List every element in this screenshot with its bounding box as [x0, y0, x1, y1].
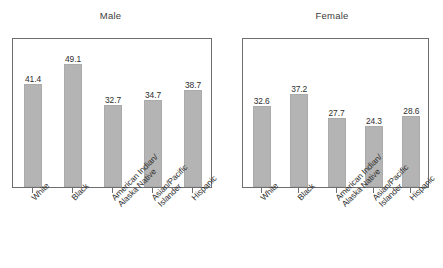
bar [328, 118, 346, 187]
panel-title-male: Male [0, 10, 221, 21]
bar [253, 106, 271, 188]
panel-title-female: Female [221, 10, 443, 21]
bar [290, 94, 308, 187]
bar-value-label: 32.6 [246, 96, 278, 106]
bar-value-label: 49.1 [57, 54, 89, 64]
bar-value-label: 24.3 [358, 116, 390, 126]
bar [24, 84, 42, 188]
bar-value-label: 37.2 [283, 84, 315, 94]
panel-male: Male 41.449.132.734.738.7 WhiteBlackAmer… [0, 0, 221, 268]
bar [104, 105, 122, 187]
bar-value-label: 27.7 [321, 108, 353, 118]
panel-female: Female 32.637.227.724.328.6 WhiteBlackAm… [221, 0, 443, 268]
bar-value-label: 28.6 [395, 106, 427, 116]
bar-value-label: 34.7 [137, 90, 169, 100]
bar-value-label: 32.7 [97, 95, 129, 105]
bar [64, 64, 82, 187]
bar-chart-figure: Male 41.449.132.734.738.7 WhiteBlackAmer… [0, 0, 443, 268]
bar-value-label: 38.7 [177, 80, 209, 90]
bar-value-label: 41.4 [17, 74, 49, 84]
